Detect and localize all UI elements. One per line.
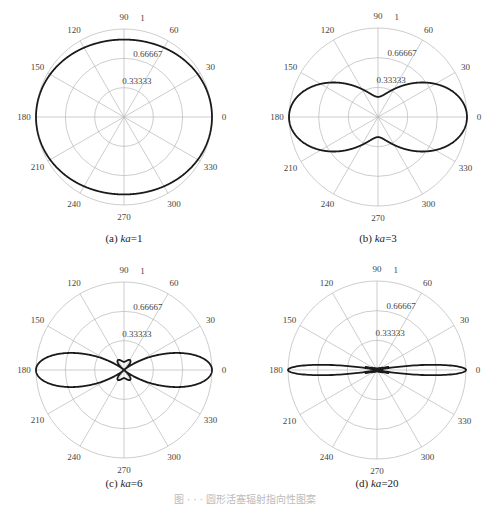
panel-caption: (c) ka=6: [105, 477, 143, 490]
theta-tick-label: 210: [283, 416, 297, 426]
figure-caption: 图 · · · 圆形活塞辐射指向性图案: [174, 493, 316, 505]
theta-tick-label: 330: [459, 163, 473, 173]
radial-tick-label: 0.33333: [376, 75, 406, 85]
theta-tick-label: 150: [284, 62, 298, 72]
theta-tick-label: 300: [167, 199, 181, 209]
radial-tick-label: 0.33333: [122, 329, 152, 339]
theta-tick-label: 240: [67, 199, 81, 209]
polar-panel-a: 03060901201501802102402703003300.333330.…: [17, 12, 227, 245]
theta-tick-label: 270: [371, 213, 385, 223]
theta-tick-label: 60: [423, 278, 433, 288]
theta-tick-label: 150: [283, 315, 297, 325]
theta-tick-label: 150: [31, 62, 45, 72]
theta-tick-label: 120: [67, 25, 81, 35]
radial-tick-label: 0.33333: [375, 328, 405, 338]
theta-tick-label: 60: [424, 25, 434, 35]
theta-tick-label: 30: [206, 315, 216, 325]
theta-tick-label: 60: [170, 278, 180, 288]
theta-tick-label: 300: [167, 452, 181, 462]
radial-tick-label: 1: [140, 13, 145, 23]
theta-tick-label: 330: [458, 416, 472, 426]
theta-tick-label: 180: [270, 112, 284, 122]
theta-tick-label: 0: [222, 112, 227, 122]
theta-tick-label: 90: [120, 265, 130, 275]
theta-tick-label: 60: [170, 25, 180, 35]
panel-caption: (b) ka=3: [359, 232, 397, 245]
theta-tick-label: 30: [206, 62, 216, 72]
theta-tick-label: 270: [117, 212, 131, 222]
radial-tick-label: 0.66667: [133, 49, 163, 59]
polar-panel-d: 03060901201501802102402703003300.333330.…: [269, 264, 481, 490]
polar-panel-c: 03060901201501802102402703003300.333330.…: [17, 265, 227, 490]
theta-tick-label: 0: [476, 365, 481, 375]
radial-tick-label: 1: [140, 266, 145, 276]
theta-tick-label: 30: [460, 315, 470, 325]
panel-caption: (d) ka=20: [355, 477, 399, 490]
theta-tick-label: 330: [204, 162, 218, 172]
theta-tick-label: 0: [477, 112, 482, 122]
radial-tick-label: 0.33333: [122, 76, 152, 86]
theta-tick-label: 270: [370, 466, 384, 476]
theta-tick-label: 240: [67, 452, 81, 462]
theta-tick-label: 300: [421, 452, 435, 462]
theta-tick-label: 120: [67, 278, 81, 288]
theta-tick-label: 240: [320, 452, 334, 462]
theta-tick-label: 180: [17, 365, 31, 375]
theta-tick-label: 330: [204, 415, 218, 425]
theta-tick-label: 210: [31, 162, 45, 172]
radial-tick-label: 1: [394, 12, 399, 22]
theta-tick-label: 90: [373, 264, 383, 274]
theta-tick-label: 210: [31, 415, 45, 425]
theta-tick-label: 90: [374, 11, 384, 21]
theta-tick-label: 300: [422, 199, 436, 209]
radial-tick-label: 0.66667: [133, 302, 163, 312]
polar-panel-b: 03060901201501802102402703003300.333330.…: [270, 11, 482, 245]
theta-tick-label: 150: [31, 315, 45, 325]
theta-tick-label: 270: [117, 465, 131, 475]
theta-tick-label: 30: [461, 62, 471, 72]
theta-tick-label: 210: [284, 163, 298, 173]
theta-tick-label: 0: [222, 365, 227, 375]
theta-tick-label: 120: [321, 25, 335, 35]
theta-tick-label: 90: [120, 12, 130, 22]
theta-tick-label: 240: [321, 199, 335, 209]
theta-tick-label: 180: [269, 365, 283, 375]
radial-tick-label: 1: [393, 265, 398, 275]
theta-tick-label: 120: [320, 278, 334, 288]
panel-caption: (a) ka=1: [105, 232, 142, 245]
radial-tick-label: 0.66667: [387, 301, 417, 311]
theta-tick-label: 180: [17, 112, 31, 122]
radial-tick-label: 0.66667: [388, 48, 418, 58]
polar-chart-figure: 03060901201501802102402703003300.333330.…: [0, 0, 491, 506]
